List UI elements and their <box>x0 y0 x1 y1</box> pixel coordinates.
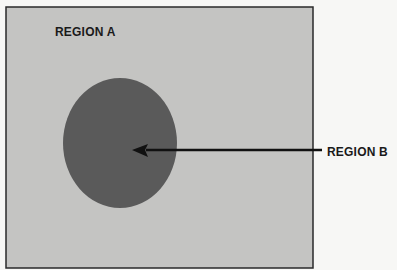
region-b-label: REGION B <box>327 145 388 159</box>
diagram-canvas <box>0 0 397 270</box>
region-a-label: REGION A <box>55 25 116 39</box>
region-b-ellipse <box>63 78 177 208</box>
